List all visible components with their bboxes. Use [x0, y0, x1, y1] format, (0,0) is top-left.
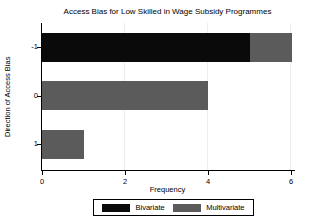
x-tick-2: [125, 171, 126, 175]
x-tick-4: [208, 171, 209, 175]
legend-label-bivariate: Bivariate: [135, 203, 164, 212]
chart-figure: Access Bias for Low Skilled in Wage Subs…: [0, 0, 311, 224]
legend: BivariateMultivariate: [93, 199, 254, 216]
y-tick-label-1: 1: [16, 139, 38, 149]
chart-title: Access Bias for Low Skilled in Wage Subs…: [41, 7, 294, 16]
bar--1-bivariate: [42, 33, 250, 62]
bar-0-multivariate: [42, 81, 208, 110]
legend-swatch-bivariate: [102, 204, 130, 212]
legend-label-multivariate: Multivariate: [206, 203, 244, 212]
x-axis-label: Frequency: [41, 185, 294, 194]
x-tick-6: [291, 171, 292, 175]
y-axis-label: Direction of Access Bias: [1, 23, 13, 170]
bar--1-multivariate: [250, 33, 292, 62]
legend-entry-multivariate: Multivariate: [173, 203, 244, 212]
bar-1-multivariate: [42, 130, 84, 159]
plot-area: -1010246: [41, 23, 295, 171]
legend-entry-bivariate: Bivariate: [102, 203, 164, 212]
y-tick-label--1: -1: [16, 42, 38, 52]
legend-swatch-multivariate: [173, 204, 201, 212]
y-tick-label-0: 0: [16, 91, 38, 101]
x-tick-0: [42, 171, 43, 175]
